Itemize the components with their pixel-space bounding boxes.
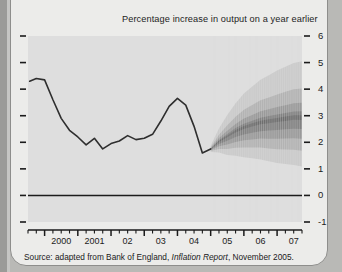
y-tick-label: 6 <box>318 30 323 41</box>
fan-bands <box>211 36 302 222</box>
y-tick-label: 4 <box>318 83 323 94</box>
history-line <box>30 79 211 153</box>
source-note: Source: adapted from Bank of England, In… <box>24 252 324 262</box>
x-tick-label: 05 <box>214 236 240 246</box>
y-tick-label: 5 <box>318 57 323 68</box>
y-tick-label: 0 <box>318 189 323 200</box>
y-tick-label: 1 <box>318 163 323 174</box>
chart-canvas <box>0 0 342 272</box>
x-tick-label: 02 <box>115 236 141 246</box>
figure-root: Percentage increase in output on a year … <box>0 0 342 272</box>
x-tick-label: 2000 <box>48 236 74 246</box>
source-prefix: Source: adapted from Bank of England, <box>24 252 169 262</box>
y-tick-label: -1 <box>318 216 326 227</box>
y-axis-labels: -10123456 <box>306 30 330 230</box>
source-suffix: , November 2005. <box>228 252 294 262</box>
y-axis-ticks-left <box>20 36 26 222</box>
source-italic: Inflation Report <box>172 252 228 262</box>
x-axis-labels: 20002001020304050607 <box>0 236 342 250</box>
chart-svg <box>0 0 342 272</box>
x-tick-label: 04 <box>181 236 207 246</box>
x-tick-label: 06 <box>247 236 273 246</box>
x-tick-label: 03 <box>148 236 174 246</box>
y-tick-label: 2 <box>318 136 323 147</box>
y-tick-label: 3 <box>318 110 323 121</box>
x-tick-label: 07 <box>281 236 307 246</box>
x-tick-label: 2001 <box>81 236 107 246</box>
